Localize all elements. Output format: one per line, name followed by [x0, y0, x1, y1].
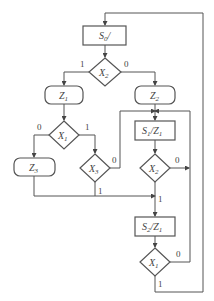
state-s2: S2/Z1: [135, 217, 175, 236]
edge-label: 1: [98, 186, 103, 196]
decision-x1-left: X1: [49, 121, 79, 149]
decision-x2-top: X2: [89, 58, 121, 86]
decision-x1-bottom: X1: [140, 248, 170, 276]
edge-label: 0: [112, 155, 117, 165]
edge-label: 1: [158, 194, 163, 204]
edge-x2-to-z2: [121, 72, 155, 85]
flowchart-svg: S0/ X2 1 0 Z1 Z2 X1 0 1 Z3 X3 0: [0, 0, 214, 301]
edge-label: 0: [175, 155, 180, 165]
edge-x2-to-z1: [64, 72, 89, 85]
state-s0: S0/: [83, 26, 126, 45]
edge-label: 1: [158, 279, 163, 289]
asm-flowchart: S0/ X2 1 0 Z1 Z2 X1 0 1 Z3 X3 0: [0, 0, 214, 301]
edge-label: 0: [124, 59, 129, 69]
edge-x1-to-x3: [79, 135, 95, 153]
cond-output-z1: Z1: [45, 86, 83, 104]
edge-x1-to-z3: [34, 135, 49, 157]
decision-x3: X3: [80, 154, 110, 182]
cond-output-z2: Z2: [135, 86, 175, 104]
decision-x2-mid: X2: [140, 154, 170, 182]
edge-label: 1: [80, 59, 85, 69]
cond-output-z3: Z3: [14, 158, 55, 176]
edge-label: 1: [85, 122, 90, 132]
state-s1: S1/Z1: [135, 121, 175, 140]
edge-label: 0: [37, 122, 42, 132]
edge-label: 0: [176, 249, 181, 259]
